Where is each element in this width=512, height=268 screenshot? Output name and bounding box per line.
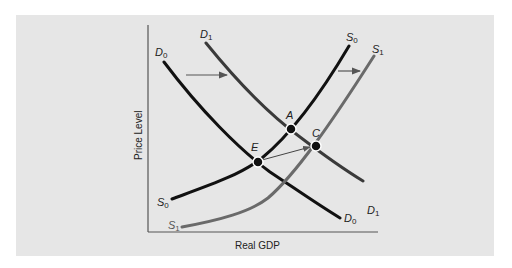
s0-start-label: S0 bbox=[157, 196, 169, 210]
d1-top-label: D1 bbox=[200, 28, 213, 42]
d0-top-label: D0 bbox=[155, 46, 168, 60]
s1-start-label: S1 bbox=[168, 219, 180, 233]
point-e-label: E bbox=[251, 141, 259, 153]
as-ad-diagram: E A C D0 D1 D1 D0 S0 S1 S0 S1 Real GDP P… bbox=[0, 0, 512, 268]
s1-top-label: S1 bbox=[372, 43, 384, 57]
x-axis-label: Real GDP bbox=[235, 240, 280, 251]
point-a-label: A bbox=[285, 109, 293, 121]
supply-curve-s0 bbox=[172, 46, 349, 199]
demand-curve-d0 bbox=[164, 62, 340, 218]
d1-end-label: D1 bbox=[367, 204, 380, 218]
point-c-marker bbox=[311, 141, 321, 151]
point-c-label: C bbox=[312, 127, 320, 139]
y-axis-label: Price Level bbox=[133, 111, 144, 160]
d0-end-label: D0 bbox=[344, 212, 357, 226]
point-e-marker bbox=[253, 157, 263, 167]
point-a-marker bbox=[286, 124, 296, 134]
s0-top-label: S0 bbox=[346, 31, 358, 45]
